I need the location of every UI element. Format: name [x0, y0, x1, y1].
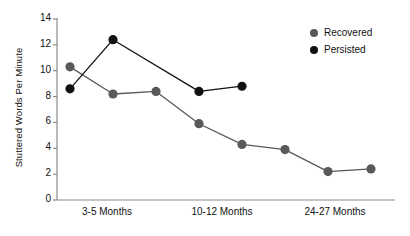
y-tick-label: 12	[29, 38, 51, 49]
x-tick-label: 10-12 Months	[191, 206, 252, 217]
legend-label-recovered: Recovered	[324, 27, 372, 38]
y-tick-label: 0	[29, 193, 51, 204]
x-tick-label: 3-5 Months	[82, 206, 132, 217]
data-point-recovered-3	[194, 119, 203, 128]
data-point-recovered-6	[323, 167, 332, 176]
legend-label-persisted: Persisted	[324, 44, 366, 55]
legend-item-persisted: Persisted	[310, 42, 372, 57]
x-tick-label: 24-27 Months	[304, 206, 365, 217]
legend-marker-recovered	[310, 29, 318, 37]
y-tick-label: 2	[29, 167, 51, 178]
y-tick-label: 6	[29, 115, 51, 126]
data-point-persisted-1	[108, 35, 117, 44]
data-point-recovered-4	[237, 140, 246, 149]
data-point-recovered-1	[108, 89, 117, 98]
data-point-persisted-3	[237, 82, 246, 91]
y-tick-label: 14	[29, 12, 51, 23]
data-point-persisted-2	[194, 87, 203, 96]
series-line-recovered	[70, 67, 371, 172]
y-tick-label: 4	[29, 141, 51, 152]
data-point-recovered-2	[151, 87, 160, 96]
y-axis-title: Stuttered Words Per Minute	[13, 18, 24, 198]
chart-legend: Recovered Persisted	[310, 25, 372, 59]
y-tick-label: 10	[29, 64, 51, 75]
data-point-recovered-0	[65, 62, 74, 71]
data-point-persisted-0	[65, 84, 74, 93]
y-tick-label: 8	[29, 90, 51, 101]
legend-item-recovered: Recovered	[310, 25, 372, 40]
chart-container: Stuttered Words Per Minute 02468101214 3…	[0, 0, 410, 236]
series-recovered	[65, 62, 375, 176]
data-point-recovered-5	[280, 145, 289, 154]
legend-marker-persisted	[310, 46, 318, 54]
data-point-recovered-7	[366, 164, 375, 173]
